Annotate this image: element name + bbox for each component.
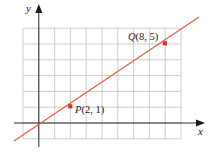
point-p-label: P(2, 1) [74,104,105,116]
x-axis-label: x [197,125,203,137]
point-q [163,41,167,45]
point-q-label: Q(8, 5) [128,31,159,43]
point-p [68,104,72,108]
y-axis-arrow-icon [35,4,42,13]
line-pq [14,17,199,141]
coordinate-plot: y x P(2, 1) Q(8, 5) [0,0,216,154]
y-axis-label: y [25,2,31,14]
